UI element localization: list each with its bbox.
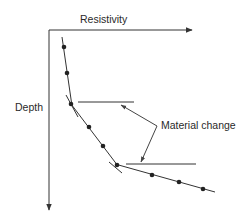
y-axis-label: Depth: [15, 101, 43, 113]
segment-layer-3: [115, 164, 215, 192]
data-point: [177, 180, 182, 185]
x-axis-label: Resistivity: [80, 13, 127, 25]
data-point: [65, 71, 70, 76]
material-change-label: Material change: [161, 119, 236, 131]
arrow-to-boundary-1: [121, 105, 157, 126]
data-point: [69, 102, 74, 107]
data-point: [101, 144, 106, 149]
annotation-arrows: [121, 105, 157, 162]
data-point: [201, 187, 206, 192]
data-point: [62, 45, 67, 50]
resistivity-curve: [62, 37, 215, 192]
data-point: [115, 163, 120, 168]
segment-layer-2: [71, 104, 118, 166]
boundary-lines: [78, 102, 196, 164]
data-point: [87, 125, 92, 130]
data-point: [150, 173, 155, 178]
arrow-to-boundary-2: [141, 126, 157, 162]
